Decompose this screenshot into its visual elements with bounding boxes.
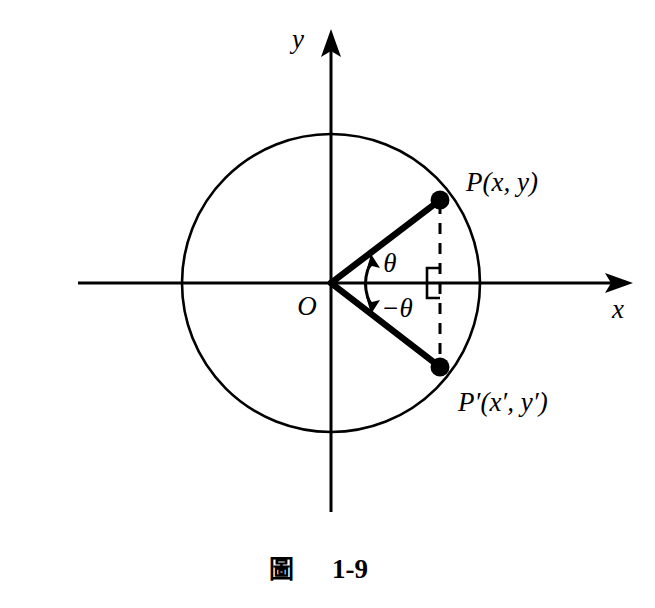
unit-circle-diagram: y x O P(x, y) P′(x′, y′) θ −θ 圖 1-9 [0, 0, 655, 608]
point-marker-p-prime [431, 358, 450, 377]
y-axis-label: y [289, 24, 304, 54]
angle-label-theta: θ [383, 248, 396, 278]
angle-label-negative-theta: −θ [381, 293, 412, 323]
figure-container: y x O P(x, y) P′(x′, y′) θ −θ 圖 1-9 [0, 0, 655, 608]
origin-label: O [297, 291, 317, 321]
point-label-p-prime: P′(x′, y′) [457, 387, 548, 417]
figure-caption-cjk: 圖 [269, 555, 294, 584]
figure-caption-number: 1-9 [332, 554, 368, 584]
axes-group [78, 29, 633, 512]
x-axis-label: x [611, 294, 624, 324]
point-marker-p [431, 191, 450, 210]
point-label-p: P(x, y) [465, 167, 538, 197]
